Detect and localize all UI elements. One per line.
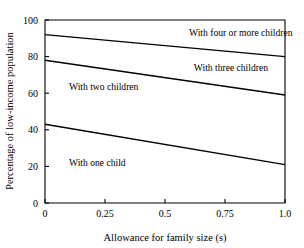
data-series-lines: [45, 35, 285, 165]
chart-container: 020406080100 00.250.50.751.0 With four o…: [0, 0, 304, 248]
x-tick-label: 0.5: [159, 208, 172, 219]
series-label: With two children: [69, 81, 139, 92]
plot-frame-path: [45, 20, 285, 203]
x-tick-label: 0: [43, 208, 48, 219]
plot-frame: [45, 20, 285, 203]
x-axis-title: Allowance for family size (s): [103, 232, 227, 244]
y-axis-ticks: [45, 20, 49, 203]
series-label: With one child: [69, 157, 126, 168]
y-tick-label: 40: [28, 124, 38, 135]
x-tick-label: 1.0: [279, 208, 292, 219]
series-label: With four or more children: [189, 27, 293, 38]
y-tick-label: 100: [23, 15, 38, 26]
series-label: With three children: [194, 62, 268, 73]
y-tick-label: 20: [28, 161, 38, 172]
y-tick-label: 0: [33, 198, 38, 209]
x-axis-tick-labels: 00.250.50.751.0: [43, 208, 292, 219]
x-axis-ticks: [45, 199, 285, 203]
y-tick-label: 80: [28, 51, 38, 62]
line-chart: 020406080100 00.250.50.751.0 With four o…: [0, 0, 304, 248]
x-tick-label: 0.75: [216, 208, 234, 219]
x-tick-label: 0.25: [96, 208, 114, 219]
y-axis-title: Percentage of low-income population: [4, 31, 15, 189]
y-tick-label: 60: [28, 88, 38, 99]
y-axis-tick-labels: 020406080100: [23, 15, 38, 209]
